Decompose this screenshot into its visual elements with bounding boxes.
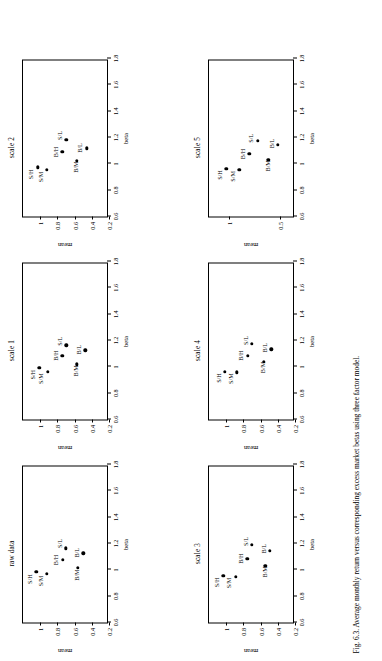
y-tick <box>229 216 230 220</box>
y-tick <box>261 419 262 423</box>
y-tick-label: 0.2 <box>292 425 299 433</box>
x-tick-label: 1.2 <box>298 539 305 547</box>
x-tick <box>293 595 297 596</box>
data-point-label: S/L <box>56 336 63 345</box>
data-point <box>45 572 48 575</box>
y-tick-label: 0.2 <box>106 425 113 433</box>
y-tick-label: 0.8 <box>54 425 61 433</box>
y-tick-label: 0.2 <box>106 222 113 230</box>
y-tick <box>295 622 296 626</box>
y-tick <box>40 419 41 423</box>
y-tick <box>278 419 279 423</box>
y-tick-label: 0.4 <box>274 425 281 433</box>
y-tick <box>75 419 76 423</box>
x-tick-label: 0.6 <box>112 415 119 423</box>
data-point <box>36 165 39 168</box>
panel-title: scale 4 <box>194 250 202 450</box>
x-tick <box>293 365 297 366</box>
data-point-label: S/L <box>55 539 62 548</box>
x-tick-label: 1.8 <box>112 257 119 265</box>
y-tick-label: 0.5 <box>276 222 283 230</box>
x-tick-label: 0.6 <box>298 618 305 626</box>
y-tick-label: 0.2 <box>106 628 113 636</box>
data-point <box>250 342 253 345</box>
data-point <box>65 137 68 140</box>
y-axis-label: mean <box>244 648 258 655</box>
x-tick-label: 1.4 <box>298 310 305 318</box>
y-tick-label: 1 <box>37 222 44 225</box>
x-tick <box>293 568 297 569</box>
y-tick-label: 0.6 <box>257 628 264 636</box>
x-tick <box>107 489 111 490</box>
y-tick-label: 1 <box>37 425 44 428</box>
data-point-label: S/H <box>26 574 33 584</box>
y-axis-label: mean <box>58 242 72 249</box>
data-point-label: S/M <box>226 373 233 384</box>
data-point-label: S/L <box>56 131 63 140</box>
data-point-label: B/M <box>72 161 79 172</box>
y-tick <box>109 622 110 626</box>
panel-title: scale 2 <box>8 47 16 247</box>
x-tick <box>293 260 297 261</box>
x-tick <box>293 489 297 490</box>
data-point <box>64 546 67 549</box>
data-point <box>224 166 227 169</box>
y-tick <box>109 216 110 220</box>
x-axis-label: beta <box>308 465 315 623</box>
data-point <box>248 152 251 155</box>
data-point-label: S/L <box>247 133 254 142</box>
x-tick <box>293 286 297 287</box>
y-tick <box>57 419 58 423</box>
x-tick <box>107 392 111 393</box>
x-tick-label: 1 <box>112 162 119 165</box>
x-tick-label: 1.8 <box>112 460 119 468</box>
data-point <box>246 353 249 356</box>
plot-area: 0.60.811.21.41.61.80.20.40.60.81S/HS/MB/… <box>22 262 108 420</box>
data-point <box>60 150 63 153</box>
x-tick-label: 1 <box>298 162 305 165</box>
y-tick-label: 1 <box>223 425 230 428</box>
y-tick-label: 0.6 <box>257 425 264 433</box>
chart-panel: scale 40.60.811.21.41.61.80.20.40.60.81S… <box>196 250 316 450</box>
y-tick <box>295 419 296 423</box>
y-tick-label: 0.8 <box>54 222 61 230</box>
x-tick-label: 1.2 <box>298 336 305 344</box>
y-tick <box>75 216 76 220</box>
y-tick-label: 0.4 <box>274 628 281 636</box>
x-tick <box>107 260 111 261</box>
y-tick-label: 0.2 <box>292 628 299 636</box>
x-tick <box>107 136 111 137</box>
y-tick <box>226 419 227 423</box>
panel-title: scale 1 <box>8 250 16 450</box>
panel-title: scale 3 <box>194 453 202 653</box>
plot-area: 0.60.811.21.41.61.80.20.40.60.81S/HS/MB/… <box>208 465 294 623</box>
x-tick-label: 0.6 <box>112 618 119 626</box>
data-point-label: S/M <box>225 577 232 588</box>
chart-panel: scale 20.60.811.21.41.61.80.20.40.60.81S… <box>10 47 130 247</box>
data-point-label: B/M <box>261 566 268 577</box>
y-tick <box>57 216 58 220</box>
x-tick <box>293 463 297 464</box>
x-tick <box>107 516 111 517</box>
data-point-label: S/H <box>27 169 34 179</box>
data-point-label: B/L <box>72 547 79 557</box>
x-tick <box>293 313 297 314</box>
y-tick <box>75 622 76 626</box>
data-point <box>85 146 88 149</box>
y-tick-label: 0.6 <box>71 222 78 230</box>
y-axis-label: mean <box>244 242 258 249</box>
x-tick <box>293 516 297 517</box>
data-point-label: B/L <box>76 143 83 153</box>
data-point-label: S/M <box>37 373 44 384</box>
x-tick <box>107 365 111 366</box>
y-tick-label: 0.4 <box>88 222 95 230</box>
x-tick <box>107 595 111 596</box>
x-tick-label: 0.6 <box>298 212 305 220</box>
x-tick-label: 0.8 <box>298 592 305 600</box>
data-point-label: S/M <box>36 171 43 182</box>
y-tick-label: 0.6 <box>71 628 78 636</box>
x-tick-label: 1.2 <box>112 336 119 344</box>
data-point-label: S/M <box>229 171 236 182</box>
x-tick <box>293 392 297 393</box>
y-tick-label: 0.4 <box>88 425 95 433</box>
